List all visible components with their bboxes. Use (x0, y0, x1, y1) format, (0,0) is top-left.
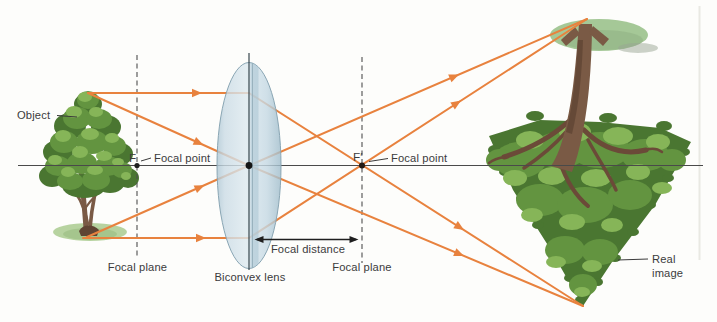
lens-center-dot (246, 162, 253, 169)
object-label: Object (17, 109, 51, 121)
image-ground-shadow (618, 43, 658, 53)
ray-top-central (88, 93, 583, 306)
focal-point-left-label: Focal point (154, 152, 211, 164)
focal-point-right-label: Focal point (391, 152, 448, 164)
lens-diagram-svg: Object F Focal point Focal plane Biconve… (0, 0, 717, 322)
real-image-label-line2: image (652, 267, 683, 279)
focal-plane-left-label: Focal plane (108, 261, 168, 273)
real-image-label-line1: Real (652, 253, 676, 265)
focal-plane-right-label: Focal plane (332, 261, 392, 273)
biconvex-lens-label: Biconvex lens (215, 271, 286, 283)
focal-distance-label: Focal distance (271, 243, 345, 255)
real-image-connector (618, 259, 648, 260)
focal-point-F-label: F (129, 151, 136, 165)
optics-figure: Object F Focal point Focal plane Biconve… (0, 0, 717, 322)
ray-bottom-central (87, 19, 587, 237)
focal-point-left-connector (141, 158, 151, 161)
focal-point-F-prime-label: F′ (353, 150, 363, 164)
